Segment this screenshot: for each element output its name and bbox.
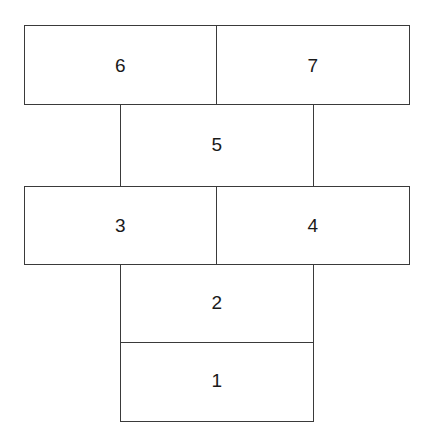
block-3[interactable]: 3 bbox=[24, 186, 217, 265]
block-2-label: 2 bbox=[212, 293, 223, 312]
diagram-canvas: 6 7 5 3 4 2 1 bbox=[0, 0, 432, 445]
block-4[interactable]: 4 bbox=[217, 186, 410, 265]
block-5[interactable]: 5 bbox=[120, 105, 314, 186]
block-1[interactable]: 1 bbox=[120, 343, 314, 422]
block-3-label: 3 bbox=[115, 216, 126, 235]
block-1-label: 1 bbox=[212, 371, 223, 390]
block-6[interactable]: 6 bbox=[24, 25, 217, 105]
block-7[interactable]: 7 bbox=[217, 25, 410, 105]
block-6-label: 6 bbox=[115, 56, 126, 75]
block-5-label: 5 bbox=[212, 135, 223, 154]
block-7-label: 7 bbox=[308, 56, 319, 75]
block-4-label: 4 bbox=[308, 216, 319, 235]
block-2[interactable]: 2 bbox=[120, 265, 314, 343]
